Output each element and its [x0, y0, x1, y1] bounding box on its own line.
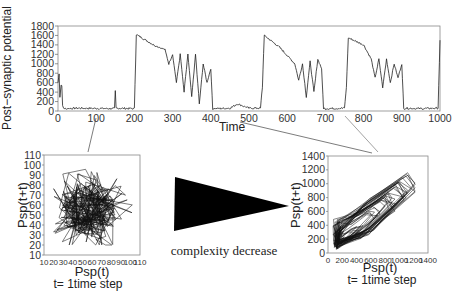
x-tick-label: 300 — [164, 112, 182, 124]
phase-plot-right: 0200400600800100012001400 02004006008001… — [288, 150, 437, 288]
y-axis-ticks: 020040060080010001200140016001800 — [31, 20, 58, 117]
y-tick-label: 200 — [307, 233, 325, 245]
x-tick-label: 200 — [336, 256, 350, 265]
y-tick-label: 1400 — [302, 150, 326, 162]
phase-left-trajectory — [54, 169, 133, 245]
phase-right-caption: t= 1time step — [347, 273, 416, 287]
x-tick-label: 200 — [126, 112, 144, 124]
psp-series-line — [58, 35, 440, 110]
phase-right-ylabel: Psp(t+t) — [288, 182, 303, 228]
x-tick-label: 400 — [202, 112, 220, 124]
x-axis-ticks: 01002003004005006007008009001000 — [55, 112, 452, 124]
figure: 020040060080010001200140016001800 010020… — [0, 0, 464, 300]
x-tick-label: 0 — [55, 112, 61, 124]
x-tick-label: 800 — [355, 112, 373, 124]
x-tick-label: 30 — [59, 258, 68, 267]
x-tick-label: 700 — [317, 112, 335, 124]
y-tick-label: 110 — [24, 149, 41, 161]
y-tick-label: 400 — [307, 219, 325, 231]
x-tick-label: 100 — [87, 112, 105, 124]
y-tick-label: 0 — [319, 247, 325, 259]
complexity-label: complexity decrease — [171, 243, 278, 258]
y-tick-label: 600 — [307, 205, 325, 217]
phase-left-ylabel: Psp(t+t) — [15, 182, 30, 228]
x-tick-label: 20 — [49, 258, 58, 267]
phase-right-trajectory — [333, 173, 415, 250]
x-tick-label: 600 — [278, 112, 296, 124]
phase-plot-left: 102030405060708090100110 102030405060708… — [15, 149, 147, 292]
phase-left-caption: t= 1time step — [53, 277, 122, 291]
zoom-connector-right-b — [240, 122, 372, 153]
x-tick-label: 1400 — [419, 256, 437, 265]
y-tick-label: 1000 — [302, 177, 326, 189]
complexity-wedge-icon — [174, 177, 289, 231]
y-axis-label: Post−synaptic potential — [0, 6, 14, 130]
y-tick-label: 1200 — [302, 163, 326, 175]
x-tick-label: 110 — [134, 258, 147, 267]
x-tick-label: 10 — [40, 258, 49, 267]
time-series-chart: 020040060080010001200140016001800 010020… — [0, 6, 452, 134]
x-tick-label: 1000 — [428, 112, 452, 124]
y-tick-label: 800 — [307, 191, 325, 203]
x-tick-label: 0 — [326, 256, 331, 265]
y-tick-label: 1800 — [31, 20, 55, 32]
x-tick-label: 900 — [393, 112, 411, 124]
